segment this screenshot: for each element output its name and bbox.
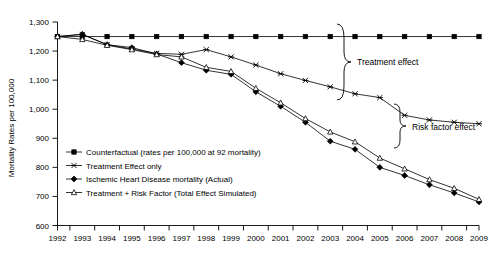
x-tick-label: 2001 [272, 234, 290, 243]
marker-filled-diamond [427, 182, 433, 188]
marker-open-triangle [377, 155, 382, 160]
treatment-effect-brace [337, 24, 351, 100]
x-tick-label: 1999 [222, 234, 240, 243]
risk-factor-effect-brace [394, 104, 406, 148]
marker-x-cross [377, 95, 383, 100]
x-tick-label: 2004 [346, 234, 364, 243]
x-tick-label: 2005 [371, 234, 389, 243]
y-tick-label: 600 [36, 222, 50, 231]
x-tick-label: 2003 [321, 234, 339, 243]
series-0 [55, 34, 481, 38]
marker-open-triangle [253, 85, 258, 90]
marker-filled-diamond [402, 173, 408, 179]
x-tick-label: 1994 [98, 234, 116, 243]
y-axis-tick-labels: 6007008009001,0001,1001,2001,300 [29, 18, 50, 231]
marker-x-cross [203, 47, 209, 52]
x-tick-label: 1993 [73, 234, 91, 243]
y-tick-label: 1,100 [29, 76, 50, 85]
x-tick-label: 1996 [148, 234, 166, 243]
legend-item-1: Treatment Effect only [66, 162, 162, 171]
y-tick-label: 900 [36, 134, 50, 143]
marker-filled-square [254, 34, 258, 38]
marker-open-triangle [352, 139, 357, 144]
x-tick-label: 2009 [470, 234, 488, 243]
annotation-braces [337, 24, 406, 148]
legend-item-2: Ischemic Heart Disease mortality (Actual… [66, 175, 233, 184]
marker-x-cross [71, 163, 77, 168]
marker-x-cross [352, 91, 358, 96]
marker-filled-diamond [179, 60, 185, 66]
legend-label-1: Treatment Effect only [86, 162, 162, 171]
legend-item-3: Treatment + Risk Factor (Total Effect Si… [66, 189, 257, 198]
legend-label-3: Treatment + Risk Factor (Total Effect Si… [86, 189, 257, 198]
marker-open-triangle [204, 65, 209, 70]
marker-filled-square [402, 34, 406, 38]
y-tick-label: 1,200 [29, 47, 50, 56]
marker-filled-square [229, 34, 233, 38]
marker-filled-square [72, 150, 76, 154]
marker-filled-square [204, 34, 208, 38]
legend-label-0: Counterfactual (rates per 100,000 at 92 … [86, 148, 261, 157]
x-tick-label: 2006 [396, 234, 414, 243]
marker-filled-square [353, 34, 357, 38]
y-axis-title: Mortality Rates per 100,000 [7, 78, 16, 177]
y-axis-ticks [53, 22, 58, 226]
treatment-effect-label: Treatment effect [357, 57, 419, 67]
chart-figure: 6007008009001,0001,1001,2001,300 1992199… [0, 0, 489, 254]
marker-filled-square [452, 34, 456, 38]
legend-label-2: Ischemic Heart Disease mortality (Actual… [86, 175, 233, 184]
x-tick-label: 2000 [247, 234, 265, 243]
marker-open-triangle [476, 197, 481, 202]
y-tick-label: 1,300 [29, 18, 50, 27]
marker-filled-square [130, 34, 134, 38]
x-axis-tick-labels: 1992199319941995199619971998199920002001… [49, 234, 489, 243]
risk-factor-effect-label: Risk factor effect [412, 122, 476, 132]
marker-filled-square [179, 34, 183, 38]
y-tick-label: 800 [36, 163, 50, 172]
marker-open-triangle [278, 100, 283, 105]
marker-filled-square [477, 34, 481, 38]
x-axis-ticks [58, 226, 480, 231]
marker-x-cross [476, 121, 482, 126]
marker-filled-square [303, 34, 307, 38]
marker-open-triangle [402, 166, 407, 171]
marker-x-cross [327, 84, 333, 89]
marker-open-triangle [303, 116, 308, 121]
marker-x-cross [278, 71, 284, 76]
x-tick-label: 2007 [421, 234, 439, 243]
marker-filled-diamond [451, 190, 457, 196]
chart-legend: Counterfactual (rates per 100,000 at 92 … [66, 148, 261, 198]
marker-open-triangle [328, 129, 333, 134]
marker-filled-square [154, 34, 158, 38]
x-tick-label: 1998 [197, 234, 215, 243]
marker-filled-square [328, 34, 332, 38]
line-chart: 6007008009001,0001,1001,2001,300 1992199… [0, 0, 489, 254]
marker-x-cross [228, 54, 234, 59]
legend-item-0: Counterfactual (rates per 100,000 at 92 … [66, 148, 261, 157]
marker-filled-square [378, 34, 382, 38]
marker-x-cross [302, 78, 308, 83]
marker-x-cross [253, 62, 259, 67]
x-tick-label: 2002 [297, 234, 315, 243]
marker-filled-diamond [71, 176, 77, 182]
marker-x-cross [402, 113, 408, 118]
x-tick-label: 2008 [445, 234, 463, 243]
marker-filled-square [427, 34, 431, 38]
marker-filled-diamond [352, 146, 358, 152]
marker-open-triangle [427, 177, 432, 182]
marker-filled-diamond [377, 164, 383, 170]
y-tick-label: 1,000 [29, 105, 50, 114]
x-tick-label: 1992 [49, 234, 67, 243]
x-tick-label: 1995 [123, 234, 141, 243]
marker-filled-square [278, 34, 282, 38]
marker-filled-square [105, 34, 109, 38]
x-tick-label: 1997 [173, 234, 191, 243]
y-tick-label: 700 [36, 192, 50, 201]
